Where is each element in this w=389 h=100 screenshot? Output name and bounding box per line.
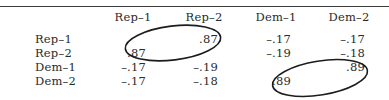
cell-rep1-rep2: .87 xyxy=(178,33,218,46)
cell-rep2-dem2: –.18 xyxy=(325,47,365,60)
cell-rep2-dem1: –.19 xyxy=(251,47,291,60)
row-label-dem-1: Dem–1 xyxy=(35,61,76,74)
column-header-rep-2: Rep–2 xyxy=(179,11,229,24)
table-top-rule xyxy=(0,6,389,7)
row-label-dem-2: Dem–2 xyxy=(35,75,76,88)
cell-rep1-dem2: –.17 xyxy=(325,33,365,46)
cell-rep1-dem1: –.17 xyxy=(251,33,291,46)
column-header-rep-1: Rep–1 xyxy=(108,11,158,24)
cell-dem1-rep1: –.17 xyxy=(106,61,146,74)
cell-dem2-rep1: –.17 xyxy=(106,75,146,88)
column-header-dem-1: Dem–1 xyxy=(251,11,301,24)
cell-dem2-dem1: .89 xyxy=(251,75,291,88)
cell-dem1-dem2: .89 xyxy=(325,61,365,74)
cell-dem2-rep2: –.18 xyxy=(178,75,218,88)
cell-rep2-rep1: .87 xyxy=(106,47,146,60)
row-label-rep-1: Rep–1 xyxy=(35,33,72,46)
column-header-dem-2: Dem–2 xyxy=(324,11,374,24)
cell-dem1-rep2: –.19 xyxy=(178,61,218,74)
row-label-rep-2: Rep–2 xyxy=(35,47,72,60)
